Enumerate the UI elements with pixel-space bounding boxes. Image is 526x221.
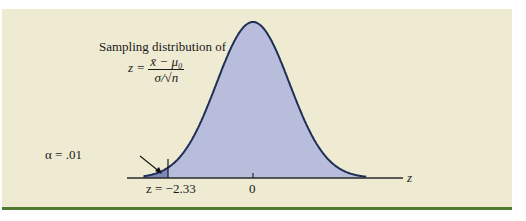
formula-lhs: z = <box>128 60 145 75</box>
normal-curve-plot <box>0 0 526 221</box>
alpha-label: α = .01 <box>45 147 82 163</box>
formula-denominator: σ/√n <box>148 70 184 85</box>
figure-title: Sampling distribution of <box>99 39 226 55</box>
center-label: 0 <box>249 181 256 197</box>
formula-fraction: x̄ − μ₀ σ/√n <box>148 54 184 85</box>
z-formula: z = x̄ − μ₀ σ/√n <box>128 54 184 85</box>
axis-label: z <box>407 170 412 186</box>
formula-numerator: x̄ − μ₀ <box>148 54 184 70</box>
critical-value-label: z = −2.33 <box>146 181 196 197</box>
